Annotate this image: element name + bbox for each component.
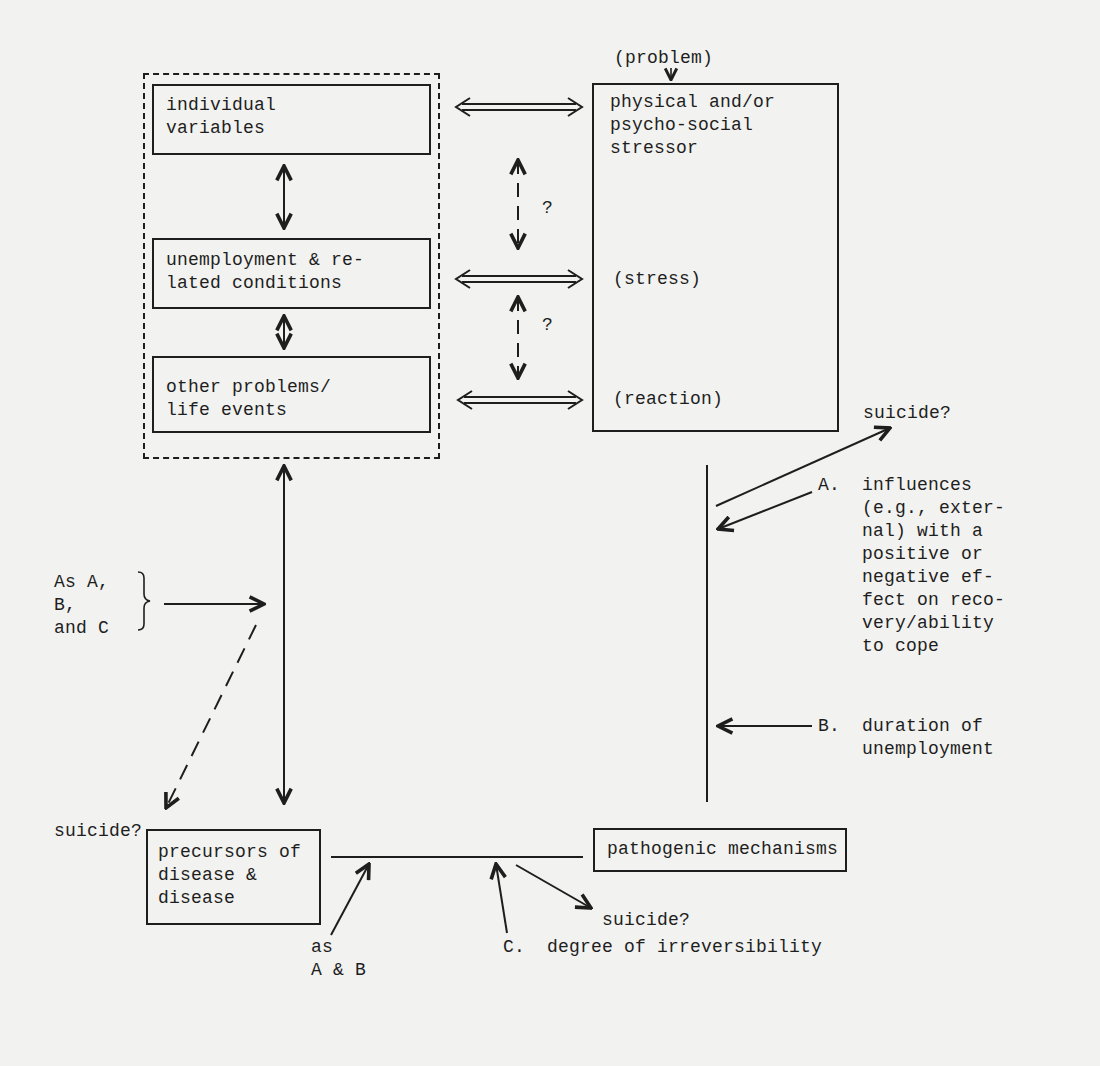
influence-c-text: degree of irreversibility — [547, 936, 822, 959]
box-unemployment: unemployment & re- lated conditions — [152, 238, 431, 309]
influence-b-line: duration of — [862, 715, 994, 738]
box-pathogenic-mechanisms: pathogenic mechanisms — [593, 828, 847, 872]
as-ab-line: as — [311, 936, 366, 959]
double-arrow-top — [456, 98, 582, 116]
influence-c-marker: C. — [503, 936, 525, 959]
stress-label: (stress) — [613, 268, 701, 291]
as-abc-line: As A, — [54, 571, 109, 594]
box-unemployment-line2: lated conditions — [166, 272, 417, 295]
arrow-as-ab — [331, 864, 369, 935]
box-precursors-line1: precursors of — [158, 841, 309, 864]
arrow-influence-a — [718, 492, 812, 529]
influence-a-line: fect on reco- — [862, 589, 1005, 612]
suicide-label-bottom: suicide? — [602, 909, 690, 932]
problem-label: (problem) — [614, 47, 713, 70]
influence-a-line: (e.g., exter- — [862, 497, 1005, 520]
suicide-label-left: suicide? — [54, 820, 142, 843]
box-individual-variables-line1: individual — [166, 94, 417, 117]
as-abc-label: As A, B, and C — [54, 571, 109, 640]
box-other-problems: other problems/ life events — [152, 356, 431, 433]
influence-a-text: influences (e.g., exter- nal) with a pos… — [862, 474, 1005, 658]
influence-a-line: to cope — [862, 635, 1005, 658]
double-arrow-middle — [456, 270, 582, 288]
box-pathogenic-line: pathogenic mechanisms — [607, 838, 833, 861]
arrow-to-suicide-bottom — [516, 865, 591, 908]
box-precursors-line3: disease — [158, 887, 309, 910]
box-unemployment-line1: unemployment & re- — [166, 249, 417, 272]
suicide-label-top-right: suicide? — [863, 402, 951, 425]
influence-a-line: influences — [862, 474, 1005, 497]
box-other-problems-line1: other problems/ — [166, 376, 417, 399]
as-ab-line: A & B — [311, 959, 366, 982]
influence-a-line: nal) with a — [862, 520, 1005, 543]
reaction-label: (reaction) — [613, 388, 723, 411]
double-arrow-bottom — [458, 391, 582, 409]
box-precursors: precursors of disease & disease — [146, 829, 321, 925]
influence-b-line: unemployment — [862, 738, 994, 761]
as-abc-line: B, — [54, 594, 109, 617]
box-individual-variables: individual variables — [152, 84, 431, 155]
arrow-influence-c — [496, 864, 507, 933]
influence-a-line: positive or — [862, 543, 1005, 566]
influence-b-text: duration of unemployment — [862, 715, 994, 761]
box-individual-variables-line2: variables — [166, 117, 417, 140]
influence-a-marker: A. — [818, 474, 840, 497]
box-stressor: physical and/or psycho-social stressor — [592, 83, 839, 432]
dashed-arrow-to-suicide-left — [166, 625, 256, 808]
box-precursors-line2: disease & — [158, 864, 309, 887]
brace-icon — [138, 572, 150, 630]
influence-a-line: negative ef- — [862, 566, 1005, 589]
box-stressor-line2: psycho-social — [610, 114, 837, 137]
as-abc-line: and C — [54, 617, 109, 640]
influence-a-line: very/ability — [862, 612, 1005, 635]
question-mark-lower: ? — [542, 314, 553, 337]
box-other-problems-line2: life events — [166, 399, 417, 422]
box-stressor-line3: stressor — [610, 137, 837, 160]
as-ab-label: as A & B — [311, 936, 366, 982]
question-mark-upper: ? — [542, 197, 553, 220]
box-stressor-line1: physical and/or — [610, 91, 837, 114]
influence-b-marker: B. — [818, 715, 840, 738]
